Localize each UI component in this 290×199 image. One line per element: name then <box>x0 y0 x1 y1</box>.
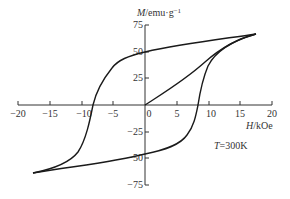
x-tick-label: −20 <box>10 108 26 119</box>
x-tick-label: 5 <box>175 108 180 119</box>
x-tick-label: 15 <box>235 108 245 119</box>
x-tick-label: −10 <box>76 108 92 119</box>
temperature-annotation: T=300K <box>214 140 248 151</box>
x-tick-label: −15 <box>42 108 58 119</box>
x-tick-labels: −20 −15 −10 −5 0 5 10 15 20 <box>10 108 277 119</box>
y-axis-title: M/emu·g−1 <box>136 7 182 18</box>
x-tick-label: −5 <box>108 108 119 119</box>
x-tick-label: 10 <box>206 108 216 119</box>
y-tick-label: −25 <box>127 126 143 137</box>
y-tick-label: −75 <box>127 179 143 190</box>
hysteresis-chart: −20 −15 −10 −5 0 5 10 15 20 75 50 25 −25… <box>0 0 290 199</box>
x-tick-label: 0 <box>147 108 152 119</box>
y-tick-label: 75 <box>133 19 143 30</box>
x-axis-title: H/kOe <box>245 120 273 131</box>
x-tick-label: 20 <box>267 108 277 119</box>
y-tick-label: 25 <box>133 72 143 83</box>
